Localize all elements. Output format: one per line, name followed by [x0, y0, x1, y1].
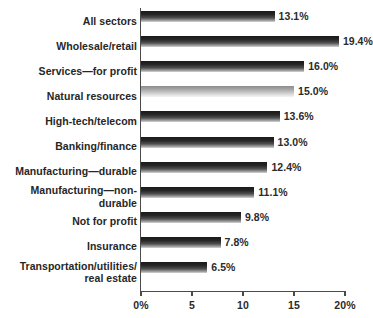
category-label: Banking/finance	[55, 140, 137, 153]
x-axis-tick	[191, 291, 192, 296]
bar-value-label: 19.4%	[343, 35, 373, 47]
bar	[141, 11, 275, 22]
bar-value-label: 9.8%	[245, 211, 269, 223]
bar-value-label: 13.1%	[279, 10, 309, 22]
category-label: Manufacturing—non-durable	[0, 184, 137, 209]
bar	[141, 162, 267, 173]
x-axis-tick	[293, 291, 294, 296]
bar	[141, 137, 274, 148]
bar-value-label: 13.6%	[284, 110, 314, 122]
bar-row: Wholesale/retail19.4%	[0, 33, 373, 58]
x-axis-tick-label: 10	[237, 299, 249, 311]
x-axis-tick-label: 20%	[334, 299, 355, 311]
bar-row: High-tech/telecom13.6%	[0, 108, 373, 133]
bar	[141, 212, 241, 223]
x-axis-tick	[344, 291, 345, 296]
bar-row: Insurance7.8%	[0, 234, 373, 259]
bar-row: Not for profit9.8%	[0, 209, 373, 234]
bar	[141, 61, 304, 72]
bar-value-label: 6.5%	[211, 261, 235, 273]
category-label: Services—for profit	[39, 64, 137, 77]
bar-value-label: 12.4%	[271, 161, 301, 173]
bar-value-label: 16.0%	[308, 60, 338, 72]
category-label: Wholesale/retail	[56, 39, 137, 52]
bar	[141, 111, 280, 122]
category-label: Natural resources	[47, 90, 137, 103]
bar-row: Services—for profit16.0%	[0, 58, 373, 83]
bar-value-label: 7.8%	[225, 236, 249, 248]
bar-row: Banking/finance13.0%	[0, 134, 373, 159]
category-label: Manufacturing—durable	[15, 165, 137, 178]
bar-value-label: 15.0%	[298, 85, 328, 97]
bar	[141, 86, 294, 97]
bar	[141, 262, 207, 273]
bar	[141, 187, 254, 198]
bar-value-label: 11.1%	[258, 186, 287, 198]
bar	[141, 36, 339, 47]
x-axis-tick	[140, 291, 141, 296]
bar-value-label: 13.0%	[278, 136, 308, 148]
x-axis-tick	[242, 291, 243, 296]
category-label: Not for profit	[72, 215, 137, 228]
bar-row: Natural resources15.0%	[0, 83, 373, 108]
bar-chart: All sectors13.1%Wholesale/retail19.4%Ser…	[0, 0, 373, 318]
bar	[141, 237, 221, 248]
x-axis-tick-label: 15	[288, 299, 300, 311]
plot-area: All sectors13.1%Wholesale/retail19.4%Ser…	[0, 0, 373, 318]
bar-row: Transportation/utilities/ real estate6.5…	[0, 259, 373, 284]
bar-row: Manufacturing—non-durable11.1%	[0, 184, 373, 209]
bar-row: Manufacturing—durable12.4%	[0, 159, 373, 184]
bar-row: All sectors13.1%	[0, 8, 373, 33]
x-axis-tick-label: 5	[189, 299, 195, 311]
x-axis-tick-label: 0%	[133, 299, 148, 311]
category-label: High-tech/telecom	[45, 115, 137, 128]
category-label: Transportation/utilities/ real estate	[20, 259, 137, 284]
category-label: Insurance	[87, 240, 137, 253]
category-label: All sectors	[83, 14, 137, 27]
